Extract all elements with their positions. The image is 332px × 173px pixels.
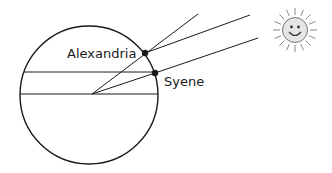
sunray-alexandria — [145, 15, 250, 53]
sun-eye-right — [297, 26, 300, 29]
syene-point — [152, 70, 158, 76]
sunray-syene — [155, 38, 258, 73]
syene-label: Syene — [164, 74, 204, 89]
sun-icon — [273, 8, 317, 52]
alexandria-point — [142, 50, 148, 56]
radius-to-syene — [92, 73, 155, 94]
alexandria-label: Alexandria — [67, 46, 136, 61]
eratosthenes-diagram: Alexandria Syene — [0, 0, 332, 173]
sun-face — [283, 18, 308, 43]
sun-eye-left — [290, 26, 293, 29]
